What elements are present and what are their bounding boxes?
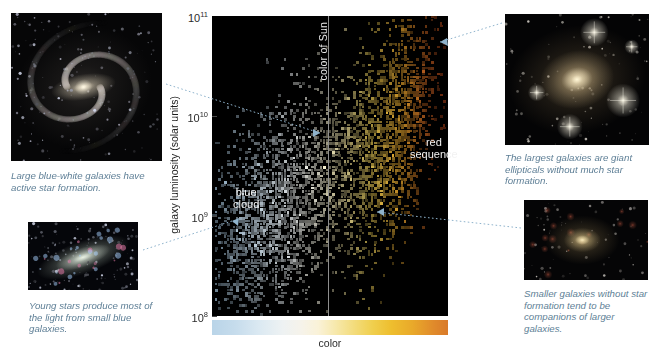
y-tick-label-3: 108 — [182, 310, 208, 324]
y-tick-label-1: 1010 — [182, 110, 208, 124]
y-axis-label: galaxy luminosity (solar units) — [168, 96, 180, 234]
color-axis-gradient — [212, 320, 448, 335]
caption-irregular: Young stars produce most of the light fr… — [29, 300, 161, 335]
caption-spiral: Large blue-white galaxies have active st… — [11, 170, 171, 193]
scatter-plot: color of Sun blue cloud red sequence — [212, 16, 448, 316]
color-of-sun-label: color of Sun — [317, 22, 329, 80]
caption-elliptical: The largest galaxies are giant elliptica… — [505, 152, 657, 187]
y-tick-mark-1 — [212, 116, 217, 117]
y-tick-label-2: 109 — [182, 210, 208, 224]
x-axis-label: color — [212, 337, 448, 349]
blue-cloud-label-line1: blue — [233, 186, 259, 198]
red-sequence-label-line1: red — [410, 136, 458, 148]
blue-cloud-label-line2: cloud — [233, 198, 259, 210]
leader-line-elliptical — [440, 23, 502, 42]
y-tick-mark-3 — [212, 316, 217, 317]
red-sequence-label: red sequence — [410, 136, 458, 160]
figure-root: color of Sun blue cloud red sequence 101… — [0, 0, 658, 351]
spiral-galaxy-photo — [11, 13, 162, 161]
caption-dwarf: Smaller galaxies without star formation … — [524, 288, 650, 334]
y-axis-label-host: galaxy luminosity (solar units) — [168, 96, 180, 238]
elliptical-galaxy-photo — [505, 14, 649, 145]
irregular-galaxy-photo — [28, 222, 138, 290]
y-tick-mark-2 — [212, 216, 217, 217]
red-sequence-label-line2: sequence — [410, 148, 458, 160]
y-tick-label-0: 1011 — [182, 10, 208, 24]
scatter-points-canvas — [212, 16, 448, 316]
plot-background — [212, 16, 448, 316]
blue-cloud-label: blue cloud — [233, 186, 259, 210]
dwarf-galaxy-photo — [524, 200, 648, 280]
